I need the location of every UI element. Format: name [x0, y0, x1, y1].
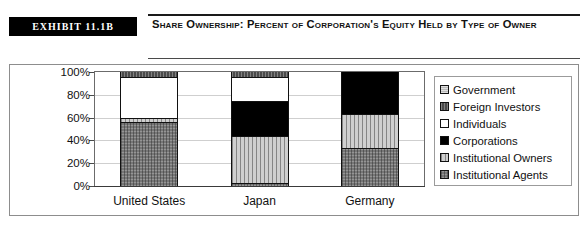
legend-item-government: Government — [440, 81, 568, 98]
bar-japan — [231, 72, 289, 186]
bar-segment-individuals — [232, 77, 288, 101]
legend-label-corporations: Corporations — [453, 135, 518, 147]
legend-item-individuals: Individuals — [440, 115, 568, 132]
legend-label-institutional-owners: Institutional Owners — [453, 152, 552, 164]
bar-segment-instowners — [342, 114, 398, 148]
plot-border-right — [424, 71, 425, 187]
bar-united-states — [120, 72, 178, 186]
y-axis-tick-label: 0% — [46, 180, 90, 192]
bar-segment-instowners — [232, 136, 288, 183]
exhibit-title: Share Ownership: Percent of Corporation'… — [152, 18, 578, 32]
legend-swatch-institutional-owners-icon — [440, 153, 449, 162]
bar-germany — [341, 72, 399, 186]
legend-swatch-individuals-icon — [440, 119, 449, 128]
bar-segment-instagents — [342, 148, 398, 186]
legend-label-government: Government — [453, 84, 515, 96]
legend-item-institutional-agents: Institutional Agents — [440, 166, 568, 183]
y-axis-tick-label: 40% — [46, 134, 90, 146]
legend-label-institutional-agents: Institutional Agents — [453, 169, 548, 181]
x-axis-label: Germany — [310, 194, 430, 208]
legend-item-corporations: Corporations — [440, 132, 568, 149]
legend-swatch-corporations-icon — [440, 136, 449, 145]
legend-item-foreign-investors: Foreign Investors — [440, 98, 568, 115]
exhibit-figure: Exhibit 11.1b Share Ownership: Percent o… — [0, 0, 588, 226]
bar-segment-corporations — [342, 72, 398, 114]
header-rule-top — [148, 14, 580, 16]
x-axis-label: Japan — [200, 194, 320, 208]
legend-swatch-foreign-investors-icon — [440, 102, 449, 111]
chart-legend: Government Foreign Investors Individuals… — [434, 76, 572, 186]
legend-swatch-institutional-agents-icon — [440, 170, 449, 179]
y-axis-labels: 100%80%60%40%20%0% — [40, 0, 90, 226]
legend-swatch-government-icon — [440, 85, 449, 94]
y-axis-tick-label: 20% — [46, 157, 90, 169]
y-axis-tick-label: 100% — [46, 66, 90, 78]
legend-label-foreign-investors: Foreign Investors — [453, 101, 540, 113]
bar-segment-instagents — [232, 183, 288, 186]
bar-segment-instagents — [121, 122, 177, 186]
bar-segment-corporations — [232, 101, 288, 136]
y-axis-tick-label: 60% — [46, 112, 90, 124]
legend-item-institutional-owners: Institutional Owners — [440, 149, 568, 166]
header-rule-bottom — [148, 58, 580, 59]
legend-label-individuals: Individuals — [453, 118, 506, 130]
plot-axis-y — [94, 71, 95, 187]
bar-segment-individuals — [121, 77, 177, 118]
y-axis-tick-label: 80% — [46, 89, 90, 101]
x-axis-label: United States — [89, 194, 209, 208]
plot-axis-x — [94, 186, 425, 187]
